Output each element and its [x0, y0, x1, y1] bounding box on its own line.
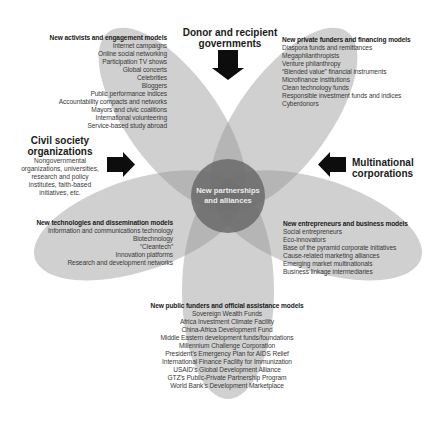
actor-governments: Donor and recipient governments: [180, 27, 280, 49]
activists-heading: New activists and engagement models: [50, 34, 167, 42]
arrow-down-icon: [212, 50, 244, 80]
list-item: Microfinance institutions: [282, 76, 411, 84]
list-item: Emerging market multinationals: [283, 260, 408, 268]
list-item: Celebrities: [50, 74, 167, 82]
list-item: Eco-innovators: [283, 236, 408, 244]
list-item: Social entrepreneurs: [283, 228, 408, 236]
list-item: China-Africa Development Fund: [127, 326, 327, 334]
arrow-right-icon: [107, 152, 135, 177]
list-item: Biotechnology: [36, 235, 173, 243]
list-item: Business linkage intermediaries: [283, 268, 408, 276]
list-item: Millennium Challenge Corporation: [127, 342, 327, 350]
list-item: International volunteering: [50, 114, 167, 122]
list-item: Cause-related marketing alliances: [283, 252, 408, 260]
list-item: Cyberdonors: [282, 100, 411, 108]
technologies-list: New technologies and dissemination model…: [36, 219, 173, 267]
list-item: Participation TV shows: [50, 58, 167, 66]
list-item: Megaphilanthropists: [282, 52, 411, 60]
list-item: Global concerts: [50, 66, 167, 74]
list-item: Innovation platforms: [36, 251, 173, 259]
list-item: Research and development networks: [36, 259, 173, 267]
center-label-line1: New partnerships: [188, 186, 268, 196]
list-item: Public performance indices: [50, 90, 167, 98]
private-funders-list: New private funders and financing models…: [282, 36, 411, 108]
public-funders-heading: New public funders and official assistan…: [127, 302, 327, 310]
center-label: New partnerships and alliances: [188, 186, 268, 206]
list-item: Internet campaigns: [50, 42, 167, 50]
actor-multinationals-line2: corporations: [352, 168, 432, 179]
list-item: Base of the pyramid corporate initiative…: [283, 244, 408, 252]
actor-civil-society-line1: Civil society: [10, 135, 110, 146]
actor-civil-society: Civil society organizations: [10, 135, 110, 157]
list-item: Responsible investment funds and indices: [282, 92, 411, 100]
list-item: Clean technology funds: [282, 84, 411, 92]
list-item: World Bank’s Development Marketplace: [127, 382, 327, 390]
actor-civil-society-description: Nongovernmental organizations, universit…: [10, 157, 110, 197]
center-label-line2: and alliances: [188, 196, 268, 206]
actor-multinationals-line1: Multinational: [352, 157, 432, 168]
actor-multinationals: Multinational corporations: [352, 157, 432, 179]
list-item: USAID’s Global Development Alliance: [127, 366, 327, 374]
entrepreneurs-heading: New entrepreneurs and business models: [283, 220, 408, 228]
list-item: “Blended value” financial instruments: [282, 68, 411, 76]
public-funders-list: New public funders and official assistan…: [127, 302, 327, 390]
list-item: President’s Emergency Plan for AIDS Reli…: [127, 350, 327, 358]
list-item: Mayors and civic coalitions: [50, 106, 167, 114]
list-item: International Finance Facility for Immun…: [127, 358, 327, 366]
list-item: Service-based study abroad: [50, 122, 167, 130]
list-item: Africa Investment Climate Facility: [127, 318, 327, 326]
list-item: Online social networking: [50, 50, 167, 58]
list-item: Sovereign Wealth Funds: [127, 310, 327, 318]
arrow-left-icon: [318, 152, 346, 177]
list-item: Diaspora funds and remittances: [282, 44, 411, 52]
list-item: Venture philanthropy: [282, 60, 411, 68]
entrepreneurs-list: New entrepreneurs and business models So…: [283, 220, 408, 276]
private-funders-heading: New private funders and financing models: [282, 36, 411, 44]
actor-governments-line2: governments: [180, 38, 280, 49]
list-item: Accountability compacts and networks: [50, 98, 167, 106]
actor-civil-society-line2: organizations: [10, 146, 110, 157]
list-item: GTZ’s Public-Private Partnership Program: [127, 374, 327, 382]
technologies-heading: New technologies and dissemination model…: [36, 219, 173, 227]
actor-governments-line1: Donor and recipient: [180, 27, 280, 38]
list-item: Middle Eastern development funds/foundat…: [127, 334, 327, 342]
list-item: Bloggers: [50, 82, 167, 90]
list-item: Information and communications technolog…: [36, 227, 173, 235]
activists-list: New activists and engagement models Inte…: [50, 34, 167, 130]
list-item: “Cleantech”: [36, 243, 173, 251]
